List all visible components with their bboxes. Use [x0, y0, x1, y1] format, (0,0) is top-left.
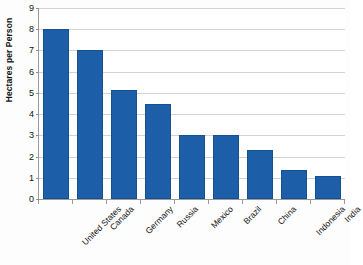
- y-tick-label: 6: [18, 67, 34, 76]
- y-axis-tick-labels: 0123456789: [18, 0, 34, 200]
- y-tick-label: 1: [18, 173, 34, 182]
- y-axis-title: Hectares per Person: [4, 5, 14, 115]
- bar: [77, 50, 103, 199]
- y-tick-mark: [36, 178, 39, 179]
- y-tick-label: 9: [18, 4, 34, 13]
- y-tick-mark: [36, 114, 39, 115]
- x-category-label: China: [276, 204, 299, 227]
- bar: [179, 135, 205, 199]
- bar: [315, 176, 341, 199]
- y-tick-label: 5: [18, 88, 34, 97]
- y-tick-mark: [36, 93, 39, 94]
- bar: [281, 170, 307, 199]
- y-tick-mark: [36, 72, 39, 73]
- y-tick-label: 0: [18, 195, 34, 204]
- bar: [111, 90, 137, 199]
- x-category-label: Brazil: [241, 204, 263, 226]
- plot-area: [38, 8, 345, 200]
- y-tick-label: 4: [18, 110, 34, 119]
- x-category-label: Mexico: [209, 204, 235, 230]
- bar: [247, 150, 273, 199]
- x-category-label: Russia: [175, 204, 200, 229]
- y-tick-label: 8: [18, 25, 34, 34]
- y-tick-mark: [36, 135, 39, 136]
- bar: [43, 29, 69, 199]
- x-axis-category-labels: United StatesCanadaGermanyRussiaMexicoBr…: [38, 204, 344, 264]
- y-tick-label: 2: [18, 152, 34, 161]
- y-tick-mark: [36, 29, 39, 30]
- y-tick-label: 7: [18, 46, 34, 55]
- bars-series: [39, 8, 345, 199]
- bar: [213, 135, 239, 199]
- y-tick-label: 3: [18, 131, 34, 140]
- x-category-label: Germany: [143, 204, 175, 236]
- x-category-label: India: [342, 204, 362, 224]
- bar: [145, 104, 171, 200]
- x-category-label: Indonesia: [314, 204, 347, 237]
- y-tick-mark: [36, 50, 39, 51]
- x-tick-mark: [344, 200, 345, 204]
- y-tick-mark: [36, 157, 39, 158]
- y-tick-mark: [36, 8, 39, 9]
